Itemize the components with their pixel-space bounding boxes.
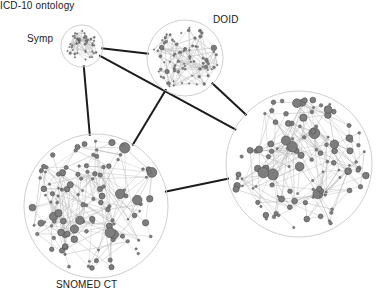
- graph-node: [91, 153, 95, 157]
- inter-cluster-edge-doid-to-icd10: [212, 83, 247, 115]
- intra-cluster-edge: [97, 150, 121, 155]
- graph-node: [74, 32, 76, 34]
- graph-node: [108, 258, 112, 262]
- graph-node: [69, 52, 71, 54]
- graph-node: [92, 197, 96, 201]
- inter-cluster-edge-symp-to-snomed: [84, 65, 90, 135]
- graph-node: [347, 123, 351, 127]
- graph-node: [204, 65, 208, 69]
- graph-node: [44, 171, 47, 174]
- graph-node: [159, 55, 162, 58]
- graph-node: [160, 76, 162, 78]
- graph-node: [93, 40, 95, 42]
- intra-cluster-edge: [52, 226, 89, 267]
- graph-node: [165, 69, 169, 73]
- graph-node: [177, 70, 180, 73]
- graph-node: [207, 74, 210, 77]
- graph-node: [124, 194, 128, 198]
- graph-node: [188, 55, 191, 58]
- graph-node: [166, 34, 168, 36]
- cluster-label-doid: DOID: [213, 14, 239, 25]
- graph-node: [95, 51, 97, 53]
- graph-node: [292, 198, 298, 204]
- graph-node: [35, 232, 39, 236]
- graph-node: [317, 186, 322, 191]
- graph-node: [64, 253, 67, 256]
- graph-node: [88, 260, 90, 262]
- graph-node: [285, 121, 291, 127]
- graph-node: [71, 47, 73, 49]
- graph-node: [91, 56, 93, 58]
- graph-node: [216, 64, 218, 66]
- graph-node: [329, 221, 333, 225]
- network-graph-canvas: [0, 0, 384, 307]
- graph-node: [189, 27, 191, 29]
- graph-node: [123, 189, 126, 192]
- graph-node: [329, 211, 333, 215]
- graph-node: [315, 148, 318, 151]
- graph-node: [94, 45, 96, 47]
- graph-node: [173, 67, 176, 70]
- graph-node: [314, 125, 317, 128]
- graph-node: [197, 46, 199, 48]
- graph-node: [86, 170, 90, 174]
- graph-node: [94, 140, 97, 143]
- graph-node: [256, 200, 260, 204]
- graph-node: [113, 223, 116, 226]
- graph-node: [247, 147, 253, 153]
- graph-node: [93, 53, 95, 55]
- graph-node: [159, 68, 162, 71]
- graph-node: [81, 202, 85, 206]
- graph-node: [139, 210, 141, 212]
- graph-node: [311, 179, 313, 181]
- graph-node: [312, 106, 314, 108]
- graph-node: [91, 44, 93, 46]
- graph-node: [142, 168, 145, 171]
- graph-node: [82, 142, 87, 147]
- graph-node: [286, 147, 289, 150]
- graph-node: [106, 207, 110, 211]
- graph-node: [71, 236, 78, 243]
- graph-node: [356, 168, 360, 172]
- graph-node: [69, 46, 71, 48]
- graph-node: [84, 35, 87, 38]
- graph-node: [61, 188, 64, 191]
- graph-node: [296, 192, 298, 194]
- graph-node: [58, 229, 65, 236]
- graph-node: [330, 140, 338, 148]
- graph-node: [240, 155, 243, 158]
- graph-node: [277, 214, 280, 217]
- graph-node: [126, 239, 130, 243]
- graph-node: [202, 57, 204, 59]
- graph-node: [163, 62, 165, 64]
- graph-node: [52, 219, 56, 223]
- intra-cluster-edge: [76, 150, 109, 166]
- graph-node: [147, 196, 153, 202]
- graph-node: [89, 56, 91, 58]
- inter-cluster-edge-doid-to-snomed: [132, 89, 166, 145]
- graph-node: [74, 149, 78, 153]
- graph-node: [85, 59, 87, 61]
- graph-node: [293, 99, 302, 108]
- graph-node: [169, 61, 171, 63]
- graph-node: [267, 169, 278, 180]
- graph-node: [164, 36, 167, 39]
- graph-node: [60, 218, 66, 224]
- graph-node: [188, 83, 190, 85]
- graph-node: [348, 164, 350, 166]
- graph-node: [79, 177, 83, 181]
- inter-cluster-edge-symp-to-doid: [101, 48, 148, 54]
- graph-node: [71, 45, 73, 47]
- graph-node: [288, 165, 291, 168]
- graph-node: [358, 132, 361, 135]
- graph-node: [157, 50, 159, 52]
- intra-cluster-edge-layer: [32, 28, 365, 268]
- graph-node: [260, 205, 263, 208]
- graph-node: [162, 76, 164, 78]
- graph-node: [64, 165, 68, 169]
- graph-node: [324, 143, 328, 147]
- graph-node: [202, 62, 204, 64]
- graph-node: [184, 48, 186, 50]
- inter-cluster-edge-snomed-to-icd10: [165, 178, 229, 191]
- graph-node: [74, 37, 76, 39]
